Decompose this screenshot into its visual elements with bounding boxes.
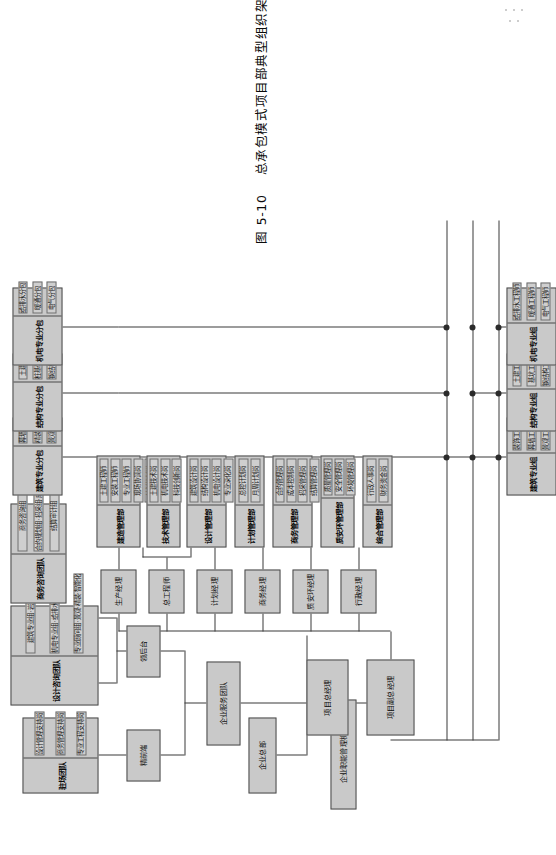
department-items: 行政人事岗 财务资金岗 [363, 456, 391, 504]
connector [98, 754, 126, 755]
department-item: 土建技术岗 [149, 458, 159, 502]
department-item: 专业深化岗 [223, 458, 233, 502]
project-deputy-general-manager-box[interactable]: 项目副总经理 [366, 659, 414, 735]
department-box-3-0[interactable]: 商务管理部 合约管理岗 成本控制岗 招采管理岗 结算管理岗 [272, 455, 312, 547]
back-office-box[interactable]: 领后台 [126, 625, 160, 677]
headquarters-label: 企业总部 [258, 739, 266, 772]
project-general-manager-label: 项目总经理 [323, 677, 331, 717]
project-general-manager-box[interactable]: 项目总经理 [306, 659, 348, 735]
connector [390, 739, 498, 740]
specialty-subcontract-2[interactable]: 机电专业分包 给排水分包 暖通分包 电气分包 [12, 287, 62, 365]
department-item: 安装工程师 [110, 458, 120, 502]
connector [160, 754, 184, 755]
manager-role-label: 质安环经理 [306, 571, 314, 611]
junction-dot [443, 390, 449, 396]
department-item: 机电设计岗 [211, 458, 221, 502]
manager-box-4[interactable]: 质安环经理 [292, 569, 328, 613]
figure-caption: 图 5-10 总承包模式项目部典型组织架构图 [250, 0, 269, 243]
connector [118, 392, 446, 393]
connector [358, 547, 359, 569]
connector [160, 650, 184, 651]
manager-box-5[interactable]: 行政经理 [340, 569, 376, 613]
connector [98, 682, 116, 683]
support-team-item: 专业顾问组·景观·精装·智能化 [73, 573, 83, 653]
connector [390, 631, 391, 659]
department-item: 科技创新岗 [171, 458, 181, 502]
specialty-subcontract-title: 机电专业分包 [13, 315, 61, 364]
connector [62, 326, 118, 327]
manager-box-3[interactable]: 商务经理 [244, 569, 280, 613]
department-items: 合约管理岗 成本控制岗 招采管理岗 结算管理岗 [273, 456, 311, 504]
department-name: 技术管理部 [147, 504, 179, 546]
scan-speck [517, 20, 519, 22]
department-box-5-0[interactable]: 综合管理部 行政人事岗 财务资金岗 [362, 455, 392, 547]
connector [262, 613, 263, 631]
manager-role-label: 生产经理 [114, 575, 122, 608]
connector [240, 702, 306, 703]
junction-dot [469, 390, 475, 396]
department-item: 财务资金岗 [378, 458, 388, 502]
connector [276, 754, 306, 755]
department-box-0-0[interactable]: 建造管理部 土建工程师 安装工程师 专业工程师 现场协调岗 计划控制岗 [96, 455, 140, 547]
connector [214, 547, 215, 569]
manager-box-0[interactable]: 生产经理 [100, 569, 136, 613]
department-item: 行政人事岗 [366, 458, 376, 502]
department-item: 现场协调岗 [133, 458, 143, 502]
manager-role-label: 行政经理 [354, 575, 362, 608]
connector [498, 220, 499, 740]
department-item: 结构设计岗 [200, 458, 210, 502]
support-team-title: 设计咨询团队 [11, 655, 97, 704]
headquarters-box[interactable]: 企业总部 [248, 717, 276, 793]
support-team-0[interactable]: 驻场团队 设计管理支持岗 商务管理支持岗 专业工程支持岗 [22, 717, 98, 793]
department-box-4-0[interactable]: 质安环管理部 质量管理岗 安全管理岗 环境管理岗 [320, 455, 354, 547]
connector [184, 702, 206, 703]
department-item: 专业工程师 [121, 458, 131, 502]
connector [262, 547, 263, 569]
project-deputy-general-manager-label: 项目副总经理 [386, 673, 394, 720]
department-items: 土建工程师 安装工程师 专业工程师 现场协调岗 计划控制岗 [97, 456, 139, 504]
department-item: 总控计划岗 [238, 458, 248, 502]
department-items: 建筑设计岗 结构设计岗 机电设计岗 专业深化岗 [187, 456, 225, 504]
connector [62, 392, 118, 393]
department-item: 建筑设计岗 [189, 458, 199, 502]
scan-speck [509, 20, 511, 22]
front-end-box[interactable]: 精前端 [126, 729, 160, 781]
support-team-1[interactable]: 设计咨询团队 建筑专业组·岩土·幕墙 机电专业组·给排水·暖通·电气 专业顾问组… [10, 605, 98, 705]
department-name: 质安环管理部 [321, 497, 353, 546]
support-team-item: 设计管理支持岗 [34, 711, 44, 755]
manager-box-1[interactable]: 总工程师 [148, 569, 184, 613]
department-item: 月周计划岗 [250, 458, 260, 502]
department-box-2-0[interactable]: 计划管理部 总控计划岗 月周计划岗 [234, 455, 264, 547]
enterprise-service-team-box[interactable]: 企业服务团队 [206, 661, 240, 745]
support-team-2[interactable]: 商务咨询团队 商务咨询组 合约规划组·招采组·成本组 结算审计组 [10, 503, 66, 603]
junction-dot [469, 324, 475, 330]
scan-speck [521, 9, 523, 11]
manager-box-2[interactable]: 计划经理 [196, 569, 232, 613]
department-item: 环境管理岗 [345, 458, 355, 495]
department-box-1-1[interactable]: 设计管理部 建筑设计岗 结构设计岗 机电设计岗 专业深化岗 [186, 455, 226, 547]
department-item: 质量管理岗 [323, 458, 333, 495]
connector [142, 547, 143, 557]
connector [214, 613, 215, 631]
front-end-label: 精前端 [139, 742, 147, 768]
specialty-group-2[interactable]: 机电专业组 给排水工程师 暖通工程师 电气工程师 [506, 287, 556, 365]
connector [166, 557, 167, 569]
department-item: 土建工程师 [99, 458, 109, 502]
department-name: 建造管理部 [97, 504, 139, 546]
department-item: 结算管理岗 [309, 458, 319, 502]
department-items: 土建技术岗 机电技术岗 科技创新岗 [147, 456, 179, 504]
specialty-subcontract-item: 暖通分包 [32, 281, 42, 313]
specialty-group-title: 机电专业组 [507, 322, 555, 364]
specialty-subcontract-title: 建筑专业分包 [13, 445, 61, 494]
department-box-1-0[interactable]: 技术管理部 土建技术岗 机电技术岗 科技创新岗 [146, 455, 180, 547]
junction-dot [443, 324, 449, 330]
figure-caption-number: 图 5-10 [253, 194, 268, 243]
specialty-group-item: 暖通工程师 [526, 282, 536, 320]
department-name: 综合管理部 [363, 504, 391, 546]
enterprise-service-team-label: 企业服务团队 [219, 679, 227, 726]
connector [118, 326, 446, 327]
manager-role-label: 总工程师 [162, 575, 170, 608]
manager-role-label: 计划经理 [210, 575, 218, 608]
back-office-label: 领后台 [139, 638, 147, 664]
